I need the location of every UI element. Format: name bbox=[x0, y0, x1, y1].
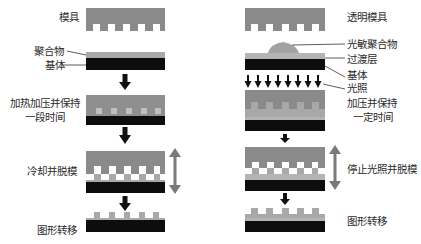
right-demold-stage bbox=[245, 147, 325, 191]
right-photopolymer-droplet bbox=[268, 42, 299, 53]
label-transfer-right: 图形转移 bbox=[347, 215, 387, 227]
label-substrate-left: 基体 bbox=[45, 59, 65, 71]
right-transparent-mold bbox=[245, 8, 325, 31]
label-heat-press-line2: 一段时间 bbox=[25, 111, 65, 123]
label-mold: 模具 bbox=[59, 11, 79, 23]
label-polymer: 聚合物 bbox=[34, 45, 64, 57]
label-stop-demold: 停止光照并脱模 bbox=[347, 163, 417, 175]
left-transfer-stage bbox=[86, 212, 165, 232]
label-press-line1: 加压并保持 bbox=[347, 97, 397, 109]
right-press-stage bbox=[245, 90, 325, 131]
right-photopolymer-leader bbox=[292, 44, 345, 45]
label-transfer-left: 图形转移 bbox=[37, 224, 77, 236]
label-photopolymer: 光敏聚合物 bbox=[347, 38, 397, 50]
left-down-arrow-2 bbox=[119, 127, 131, 144]
left-double-arrow-icon bbox=[169, 148, 181, 194]
right-substrate-leader bbox=[325, 66, 345, 77]
label-heat-press-line1: 加热加压并保持 bbox=[10, 97, 80, 109]
right-substrate bbox=[245, 59, 325, 70]
label-press-line2: 一定时间 bbox=[353, 111, 393, 123]
left-down-arrow-1 bbox=[119, 74, 131, 90]
right-light-arrows-icon bbox=[245, 75, 322, 88]
right-down-arrow-1 bbox=[280, 134, 290, 143]
label-light: 光照 bbox=[347, 82, 367, 94]
label-transparent-mold: 透明模具 bbox=[347, 11, 387, 23]
left-substrate bbox=[86, 58, 165, 70]
label-cool-demold: 冷却并脱模 bbox=[27, 165, 77, 177]
right-transition-layer bbox=[245, 53, 325, 59]
left-down-arrow-3 bbox=[119, 196, 131, 211]
right-down-arrow-2 bbox=[280, 193, 290, 205]
left-polymer-leader bbox=[67, 51, 86, 55]
label-transition-layer: 过渡层 bbox=[347, 53, 377, 65]
left-polymer-layer bbox=[86, 52, 165, 58]
left-demold-stage bbox=[86, 151, 165, 193]
right-light-leader bbox=[323, 84, 345, 89]
right-transfer-stage bbox=[245, 208, 325, 232]
left-mold bbox=[86, 8, 165, 31]
right-double-arrow-icon bbox=[329, 145, 341, 190]
label-substrate-right: 基体 bbox=[347, 69, 367, 81]
left-press-stage bbox=[86, 95, 165, 125]
